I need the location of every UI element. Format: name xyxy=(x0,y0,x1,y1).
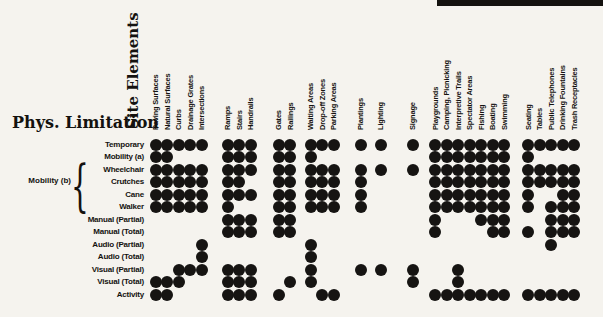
matrix-dot xyxy=(328,189,340,201)
matrix-dot xyxy=(150,139,162,151)
row-label: Manual (Partial) xyxy=(24,215,144,225)
matrix-dot xyxy=(498,151,510,163)
matrix-dot xyxy=(316,164,328,176)
matrix-dot xyxy=(173,201,185,213)
matrix-dot xyxy=(245,289,257,301)
matrix-dot xyxy=(545,214,557,226)
column-label: Interpretive Trails xyxy=(454,36,463,130)
matrix-dot xyxy=(305,276,317,288)
column-label: Camping, Picnicking xyxy=(442,36,451,130)
matrix-dot xyxy=(534,139,546,151)
matrix-dot xyxy=(245,226,257,238)
matrix-dot xyxy=(557,176,569,188)
row-label: Walker xyxy=(24,202,144,212)
matrix-dot xyxy=(184,264,196,276)
matrix-dot xyxy=(498,164,510,176)
matrix-dot xyxy=(545,239,557,251)
matrix-dot xyxy=(233,214,245,226)
column-label: Drinking Fountains xyxy=(558,36,567,130)
matrix-dot xyxy=(316,201,328,213)
row-label: Audio (Partial) xyxy=(24,240,144,250)
matrix-dot xyxy=(196,189,208,201)
matrix-dot xyxy=(568,176,580,188)
matrix-dot xyxy=(487,176,499,188)
matrix-dot xyxy=(284,276,296,288)
matrix-dot xyxy=(233,226,245,238)
matrix-dot xyxy=(568,226,580,238)
matrix-dot xyxy=(429,164,441,176)
matrix-dot xyxy=(557,189,569,201)
matrix-dot xyxy=(498,176,510,188)
matrix-dot xyxy=(184,176,196,188)
matrix-dot xyxy=(568,189,580,201)
matrix-dot xyxy=(273,139,285,151)
matrix-dot xyxy=(429,139,441,151)
matrix-dot xyxy=(161,151,173,163)
matrix-dot xyxy=(305,189,317,201)
matrix-dot xyxy=(475,189,487,201)
column-label: Plantings xyxy=(356,36,365,130)
matrix-dot xyxy=(498,139,510,151)
matrix-dot xyxy=(273,151,285,163)
matrix-dot xyxy=(150,201,162,213)
matrix-dot xyxy=(173,264,185,276)
matrix-dot xyxy=(568,164,580,176)
matrix-dot xyxy=(150,176,162,188)
matrix-dot xyxy=(245,276,257,288)
matrix-dot xyxy=(407,139,419,151)
matrix-dot xyxy=(429,176,441,188)
matrix-dot xyxy=(441,139,453,151)
column-label: Public Telephones xyxy=(547,36,556,130)
column-label: Boating xyxy=(488,36,497,130)
matrix-dot xyxy=(328,139,340,151)
matrix-dot xyxy=(498,289,510,301)
matrix-dot xyxy=(487,226,499,238)
matrix-dot xyxy=(245,189,257,201)
matrix-dot xyxy=(568,289,580,301)
matrix-dot xyxy=(305,164,317,176)
matrix-dot xyxy=(284,226,296,238)
matrix-dot xyxy=(273,226,285,238)
column-label: Paving Surfaces xyxy=(151,36,160,130)
column-label: Drop-off Zones xyxy=(318,36,327,130)
matrix-dot xyxy=(475,151,487,163)
matrix-dot xyxy=(355,176,367,188)
scan-edge-bar xyxy=(437,0,603,6)
column-label: Gates xyxy=(274,36,283,130)
matrix-dot xyxy=(522,189,534,201)
matrix-dot xyxy=(475,214,487,226)
column-label: Railings xyxy=(286,36,295,130)
column-label: Stairs xyxy=(235,36,244,130)
matrix-dot xyxy=(407,276,419,288)
matrix-dot xyxy=(222,289,234,301)
matrix-dot xyxy=(196,239,208,251)
matrix-dot xyxy=(441,189,453,201)
matrix-dot xyxy=(328,176,340,188)
matrix-dot xyxy=(355,264,367,276)
matrix-dot xyxy=(522,139,534,151)
matrix-dot xyxy=(545,226,557,238)
column-label: Intersections xyxy=(197,36,206,130)
matrix-dot xyxy=(475,289,487,301)
matrix-dot xyxy=(452,289,464,301)
matrix-dot xyxy=(316,176,328,188)
matrix-dot xyxy=(245,264,257,276)
matrix-dot xyxy=(184,139,196,151)
matrix-dot xyxy=(452,201,464,213)
matrix-dot xyxy=(475,139,487,151)
matrix-dot xyxy=(316,189,328,201)
matrix-dot xyxy=(522,151,534,163)
matrix-dot xyxy=(522,164,534,176)
matrix-dot xyxy=(161,276,173,288)
matrix-dot xyxy=(222,176,234,188)
matrix-dot xyxy=(222,151,234,163)
row-label: Visual (Partial) xyxy=(24,265,144,275)
matrix-dot xyxy=(487,214,499,226)
matrix-dot xyxy=(557,164,569,176)
matrix-dot xyxy=(173,189,185,201)
matrix-dot xyxy=(273,164,285,176)
row-label: Crutches xyxy=(24,177,144,187)
matrix-dot xyxy=(245,214,257,226)
matrix-dot xyxy=(305,251,317,263)
matrix-dot xyxy=(284,164,296,176)
